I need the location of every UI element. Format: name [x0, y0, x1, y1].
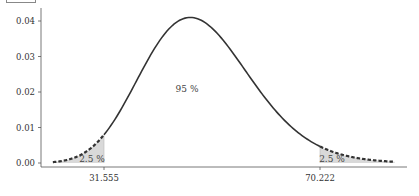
- center-percent-label: 95 %: [176, 84, 199, 94]
- y-tick-label: 0.03: [16, 52, 35, 62]
- y-tick-label: 0.00: [16, 158, 35, 168]
- right-tail-percent-label: 2.5 %: [319, 154, 345, 164]
- y-ticks: [38, 21, 41, 163]
- y-tick-label: 0.04: [16, 16, 35, 26]
- left-tail-percent-label: 2.5 %: [79, 154, 105, 164]
- lower-critical-value-label: 31.555: [89, 173, 119, 183]
- chi-square-density-chart: 0.04 0.03 0.02 0.01 0.00 31.555 70.222 9…: [0, 0, 419, 196]
- center-curve: [104, 17, 320, 146]
- upper-critical-value-label: 70.222: [305, 173, 335, 183]
- y-tick-label: 0.02: [16, 87, 35, 97]
- y-tick-label: 0.01: [16, 123, 35, 133]
